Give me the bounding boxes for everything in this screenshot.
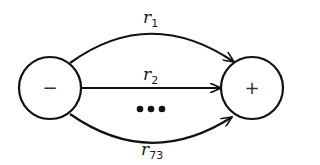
edge-var: r [143, 64, 151, 84]
plus-sign: + [244, 79, 259, 97]
edge-label-r1: r1 [143, 9, 158, 29]
edge-subscript: 2 [151, 74, 158, 87]
edge-var: r [143, 7, 151, 27]
edge-subscript: 73 [149, 149, 163, 162]
edge-subscript: 1 [151, 17, 158, 30]
minus-sign: − [42, 79, 57, 97]
edge-label-r73: r73 [141, 141, 163, 161]
edge-label-r2: r2 [143, 66, 158, 86]
ellipsis-dot [137, 106, 144, 113]
ellipsis-dot [159, 106, 166, 113]
edge-var: r [141, 139, 149, 159]
ellipsis-dot [148, 106, 155, 113]
edge-r73-arc [70, 114, 232, 143]
edge-r1-arc [70, 34, 234, 63]
